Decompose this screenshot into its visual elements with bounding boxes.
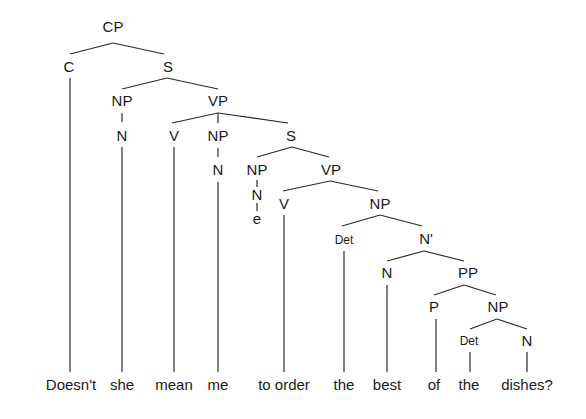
node-s: S (286, 127, 296, 144)
sentence-words: Doesn't she mean me to order the best of… (46, 376, 553, 393)
node-n: N (382, 264, 393, 281)
tree-nodes: CP C S NP VP N V NP S N NP VP N e V NP D… (64, 18, 533, 349)
edge-pp-np (464, 285, 496, 295)
edge-s-np (122, 78, 167, 89)
node-n: N (117, 127, 128, 144)
node-c: C (64, 58, 75, 75)
node-n: N (522, 332, 533, 349)
edge-vp-s (218, 113, 288, 123)
word: the (459, 376, 480, 393)
node-np: NP (247, 161, 268, 178)
edge-np5-det (470, 319, 497, 329)
word: Doesn't (46, 376, 97, 393)
edge-s2-vp (292, 147, 329, 157)
word: the (334, 376, 355, 393)
node-pp: PP (458, 264, 478, 281)
edge-s-vp (167, 78, 218, 89)
edge-np4-det (342, 215, 380, 226)
edge-np4-nbar (380, 215, 422, 226)
node-v: V (169, 127, 179, 144)
node-vp: VP (321, 161, 341, 178)
node-empty-e: e (253, 210, 261, 227)
edge-vp2-v (283, 181, 330, 191)
tree-edges (70, 43, 527, 372)
edge-nbar-pp (424, 251, 464, 261)
edge-np5-n (497, 319, 527, 329)
word: she (110, 376, 134, 393)
node-np: NP (208, 127, 229, 144)
edge-vp2-np (330, 181, 378, 191)
edge-nbar-n (387, 251, 424, 261)
edge-s2-np (257, 147, 292, 157)
node-cp: CP (103, 18, 124, 35)
node-n-bar: N' (419, 230, 433, 247)
node-v: V (279, 195, 289, 212)
word: of (428, 376, 441, 393)
edge-vp-v (172, 113, 218, 123)
node-vp: VP (208, 92, 228, 109)
edge-cp-s (113, 43, 164, 54)
word: to order (258, 376, 310, 393)
node-np: NP (488, 298, 509, 315)
syntax-tree-diagram: CP C S NP VP N V NP S N NP VP N e V NP D… (0, 0, 586, 419)
word: dishes? (501, 376, 553, 393)
node-det: Det (460, 334, 479, 348)
word: best (373, 376, 402, 393)
word: mean (155, 376, 193, 393)
node-s: S (163, 58, 173, 75)
edge-pp-p (434, 285, 464, 295)
edge-cp-c (70, 43, 113, 54)
node-n: N (213, 161, 224, 178)
word: me (208, 376, 229, 393)
node-det: Det (335, 233, 354, 247)
node-p: P (429, 298, 439, 315)
node-np: NP (370, 195, 391, 212)
node-np: NP (112, 92, 133, 109)
node-n: N (252, 186, 263, 203)
